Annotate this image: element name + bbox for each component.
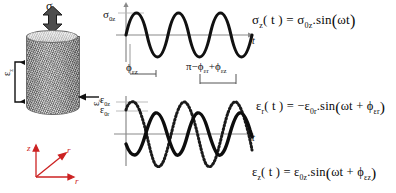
phase-span-bracket xyxy=(196,72,240,86)
eq-epsz-fn-plus: + xyxy=(347,165,354,179)
equation-stress: σz( t ) = σ0z.sin(ωt) xyxy=(252,12,356,31)
phase-label-phi-epsz: ϕεz xyxy=(126,62,138,73)
axial-strain-bracket-icon xyxy=(11,60,26,104)
triad-label-z: z xyxy=(26,143,31,153)
strain-x-axis-label: t xyxy=(252,133,255,143)
specimen-panel: σz εz εr xyxy=(0,0,104,193)
eq-epsr-equals: = xyxy=(287,99,294,113)
eq-sigma-argument: ( t ) xyxy=(263,12,283,27)
epsilon-subscript-z: z xyxy=(7,69,14,72)
stress-y-axis-arrowhead xyxy=(123,2,128,7)
eq-epsz-equals: = xyxy=(283,165,290,179)
eq-sigma-equals: = xyxy=(286,12,294,27)
equation-strain-radial: εr( t ) = −ε0r.sin(ωt + ϕεr) xyxy=(256,98,385,116)
eq-epsz-argument: ( t ) xyxy=(261,165,280,179)
stress-x-axis-label: t xyxy=(252,36,255,46)
eq-epsr-fn-arg: ωt xyxy=(341,99,353,113)
strain-waveform-plot xyxy=(104,96,274,168)
eq-epsr-argument: ( t ) xyxy=(264,99,283,113)
eq-epsz-fn-phi: ϕ xyxy=(357,165,364,179)
eq-epsz-fn: sin xyxy=(311,165,326,179)
phi-subscript-1: εz xyxy=(132,68,138,75)
phase-label-pi-minus-phi: π−ϕεr+ϕεz xyxy=(186,61,227,72)
eq-epsr-fn-plus: + xyxy=(356,99,363,113)
equation-strain-axial: εz( t ) = ε0z.sin(ωt + ϕεz) xyxy=(252,164,376,182)
axial-load-double-arrow-icon xyxy=(42,6,63,33)
figure-canvas: σz εz εr xyxy=(0,0,396,193)
triad-label-r-diagonal: r xyxy=(67,145,71,155)
eq-epsz-fn-arg: ωt xyxy=(331,165,343,179)
cylinder-top-ellipse xyxy=(26,30,78,43)
eq-sigma-fn-arg: ωt xyxy=(337,12,350,27)
specimen-axial-strain-label: εz xyxy=(2,69,12,76)
eq-sigma-fn: sin xyxy=(316,12,332,27)
eq-epsz-fn-phi-sub: εz xyxy=(364,173,371,182)
eq-epsr-fn: sin xyxy=(320,99,335,113)
epsilon-symbol-z: ε xyxy=(1,72,12,76)
eq-epsr-amp-subscript: 0r xyxy=(310,107,317,116)
coordinate-axes-triad: z r r xyxy=(26,143,82,185)
cylinder-body xyxy=(26,36,80,115)
triad-label-r-horizontal: r xyxy=(75,176,79,185)
